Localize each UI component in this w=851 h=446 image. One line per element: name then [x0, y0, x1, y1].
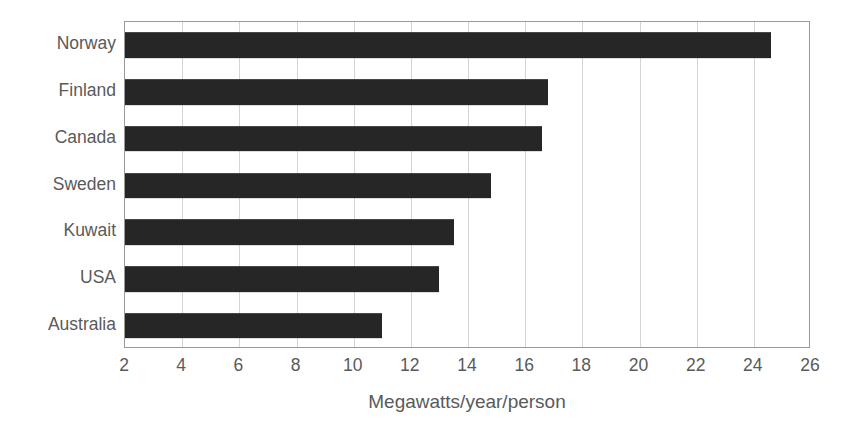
y-tick-label: Sweden [0, 176, 116, 194]
x-tick-label: 4 [176, 356, 186, 375]
bars-layer [125, 22, 809, 347]
bar [125, 173, 491, 199]
x-tick-label: 12 [400, 356, 419, 375]
bar [125, 219, 454, 245]
y-tick-label: USA [0, 269, 116, 287]
y-axis-category-labels: NorwayFinlandCanadaSwedenKuwaitUSAAustra… [0, 21, 116, 348]
x-tick-label: 24 [743, 356, 762, 375]
bar [125, 33, 771, 59]
x-tick-label: 6 [233, 356, 243, 375]
bar [125, 126, 542, 152]
bar [125, 266, 439, 292]
x-axis-tick-labels: 2468101214161820222426 [124, 356, 810, 382]
x-tick-label: 22 [686, 356, 705, 375]
x-tick-label: 10 [343, 356, 362, 375]
bar-chart-figure: NorwayFinlandCanadaSwedenKuwaitUSAAustra… [0, 0, 851, 446]
plot-area [124, 21, 810, 348]
x-tick-label: 14 [457, 356, 476, 375]
y-tick-label: Norway [0, 36, 116, 54]
y-tick-label: Finland [0, 82, 116, 100]
x-tick-label: 20 [629, 356, 648, 375]
y-tick-label: Canada [0, 129, 116, 147]
x-tick-label: 16 [514, 356, 533, 375]
bar [125, 79, 548, 105]
x-tick-label: 8 [291, 356, 301, 375]
y-tick-label: Australia [0, 316, 116, 334]
bar [125, 313, 382, 339]
y-tick-label: Kuwait [0, 222, 116, 240]
x-axis-title: Megawatts/year/person [124, 391, 810, 413]
x-tick-label: 26 [800, 356, 819, 375]
x-tick-label: 18 [572, 356, 591, 375]
x-tick-label: 2 [119, 356, 129, 375]
